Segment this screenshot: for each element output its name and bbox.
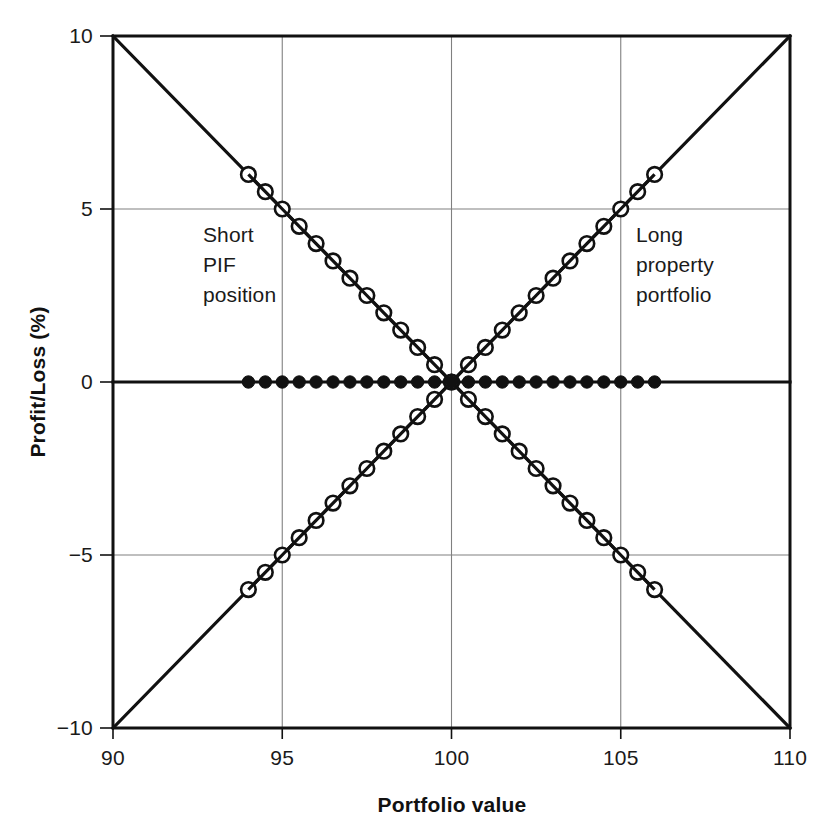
x-tick-label-90: 90 xyxy=(101,746,125,770)
annotation-short-line-1: Short xyxy=(203,220,276,250)
annotation-short-line-2: PIF xyxy=(203,250,276,280)
y-tick-label-5: 5 xyxy=(33,197,93,221)
x-axis-title: Portfolio value xyxy=(378,793,527,817)
x-tick-label-110: 110 xyxy=(773,746,807,770)
annotation-long-property-portfolio: Longpropertyportfolio xyxy=(636,220,714,310)
annotation-long-line-1: Long xyxy=(636,220,714,250)
x-tick-label-95: 95 xyxy=(270,746,294,770)
y-axis-title: Profit/Loss (%) xyxy=(26,306,50,457)
series-hedged-position xyxy=(113,376,790,388)
annotation-long-line-3: portfolio xyxy=(636,280,714,310)
x-tick-label-105: 105 xyxy=(603,746,639,770)
annotation-short-pif-position: ShortPIFposition xyxy=(203,220,276,310)
plot-canvas xyxy=(0,0,836,840)
chart-figure: 90951001051101050−5−10 Portfolio value P… xyxy=(0,0,836,840)
annotation-short-line-3: position xyxy=(203,280,276,310)
annotation-long-line-2: property xyxy=(636,250,714,280)
x-tick-label-100: 100 xyxy=(434,746,470,770)
y-tick-label-neg10: −10 xyxy=(33,716,93,740)
y-tick-label-10: 10 xyxy=(33,24,93,48)
y-tick-label-neg5: −5 xyxy=(33,543,93,567)
